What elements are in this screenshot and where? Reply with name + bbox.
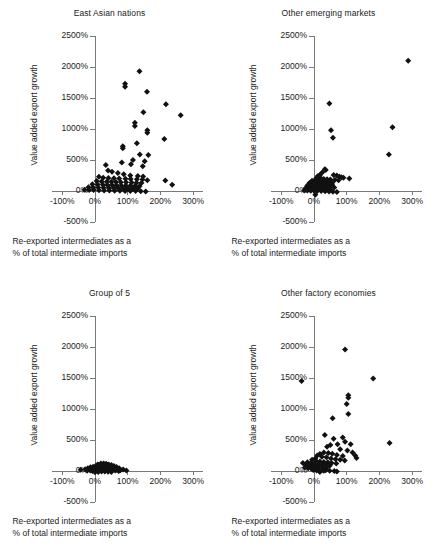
scatter-plot-figure: East Asian nations 2500%2000%1500%1000%5… [0, 0, 439, 560]
data-point [134, 140, 140, 146]
x-axis-title-line1: Re-exported intermediates as a [12, 516, 131, 528]
y-tick-label: 1500% [62, 92, 88, 102]
y-tick-label: -500% [63, 496, 88, 506]
x-tick-label: 300% [173, 476, 213, 486]
y-tick-label: 2500% [281, 310, 307, 320]
data-point [132, 123, 138, 129]
y-tick-label: 500% [285, 154, 307, 164]
data-point [178, 112, 184, 118]
data-point [326, 101, 332, 107]
data-point [337, 446, 343, 452]
data-point [162, 177, 168, 183]
y-tick-label: 1000% [281, 123, 307, 133]
data-point [144, 177, 150, 183]
y-tick-label: 2000% [281, 61, 307, 71]
data-point [144, 89, 150, 95]
data-point [140, 109, 146, 115]
data-point [386, 151, 392, 157]
data-point [330, 135, 336, 141]
data-point [345, 411, 351, 417]
data-point [169, 182, 175, 188]
y-tick-label: 2500% [62, 310, 88, 320]
y-axis-title: Value added export growth [248, 330, 258, 460]
data-point [122, 84, 128, 90]
x-axis-title-line1: Re-exported intermediates as a [231, 516, 350, 528]
data-point [143, 189, 149, 195]
x-axis-title: Re-exported intermediates as a% of total… [231, 516, 350, 539]
data-point [145, 152, 151, 158]
data-point [334, 452, 340, 458]
data-point [115, 170, 121, 176]
panel-other-emerging-markets: Other emerging markets 2500%2000%1500%10… [219, 0, 438, 280]
y-tick-label: 2500% [281, 30, 307, 40]
data-point [328, 127, 334, 133]
x-axis-title-line1: Re-exported intermediates as a [12, 236, 131, 248]
panel-east-asian-nations: East Asian nations 2500%2000%1500%1000%5… [0, 0, 219, 280]
x-tick-label: 300% [392, 196, 432, 206]
y-tick-label: 0% [76, 465, 88, 475]
data-point [389, 124, 395, 130]
y-tick-label: 1000% [62, 403, 88, 413]
data-point [342, 346, 348, 352]
data-point [163, 101, 169, 107]
data-point [119, 159, 125, 165]
y-tick-label: 1500% [281, 372, 307, 382]
y-tick-label: 500% [66, 154, 88, 164]
data-point [136, 68, 142, 74]
panel-group-of-5: Group of 5 2500%2000%1500%1000%500%0%-50… [0, 280, 219, 560]
data-point [333, 461, 339, 467]
data-point [103, 162, 109, 168]
data-point [348, 441, 354, 447]
y-tick-label: 2000% [281, 341, 307, 351]
plot-area: 2500%2000%1500%1000%500%0%-500%-100%0%10… [0, 280, 219, 560]
x-axis-title: Re-exported intermediates as a% of total… [12, 516, 131, 539]
y-tick-label: 1500% [281, 92, 307, 102]
data-point [161, 136, 167, 142]
y-axis-title: Value added export growth [29, 50, 39, 180]
x-axis-title-line2: % of total intermediate imports [231, 248, 350, 260]
x-axis-title-line2: % of total intermediate imports [12, 248, 131, 260]
data-point [330, 415, 336, 421]
y-tick-label: 2000% [62, 341, 88, 351]
data-series [82, 68, 184, 194]
data-point [335, 441, 341, 447]
data-point [344, 448, 350, 454]
y-tick-label: -500% [282, 216, 307, 226]
data-point [344, 401, 350, 407]
data-point [405, 58, 411, 64]
y-tick-label: 0% [295, 185, 307, 195]
x-tick-label: 300% [392, 476, 432, 486]
y-tick-label: -500% [282, 496, 307, 506]
x-axis-title-line2: % of total intermediate imports [231, 528, 350, 540]
data-point [387, 440, 393, 446]
y-tick-label: 1000% [281, 403, 307, 413]
y-axis-title: Value added export growth [248, 50, 258, 180]
y-tick-label: 0% [76, 185, 88, 195]
x-axis-title: Re-exported intermediates as a% of total… [12, 236, 131, 259]
y-tick-label: 0% [295, 465, 307, 475]
data-point [322, 432, 328, 438]
y-tick-label: 500% [285, 434, 307, 444]
y-tick-label: -500% [63, 216, 88, 226]
x-axis-title: Re-exported intermediates as a% of total… [231, 236, 350, 259]
data-point [370, 376, 376, 382]
y-axis-title: Value added export growth [29, 330, 39, 460]
plot-area: 2500%2000%1500%1000%500%0%-500%-100%0%10… [219, 280, 438, 560]
x-axis-title-line2: % of total intermediate imports [12, 528, 131, 540]
y-tick-label: 1500% [62, 372, 88, 382]
y-tick-label: 500% [66, 434, 88, 444]
y-tick-label: 1000% [62, 123, 88, 133]
plot-area: 2500%2000%1500%1000%500%0%-500%-100%0%10… [219, 0, 438, 280]
data-point [137, 151, 143, 157]
data-series [301, 58, 411, 198]
data-series [299, 346, 393, 474]
data-point [331, 436, 337, 442]
data-point [346, 176, 352, 182]
x-tick-label: 300% [173, 196, 213, 206]
plot-area: 2500%2000%1500%1000%500%0%-500%-100%0%10… [0, 0, 219, 280]
y-tick-label: 2500% [62, 30, 88, 40]
x-axis-title-line1: Re-exported intermediates as a [231, 236, 350, 248]
panel-other-factory-economies: Other factory economies 2500%2000%1500%1… [219, 280, 438, 560]
y-tick-label: 2000% [62, 61, 88, 71]
